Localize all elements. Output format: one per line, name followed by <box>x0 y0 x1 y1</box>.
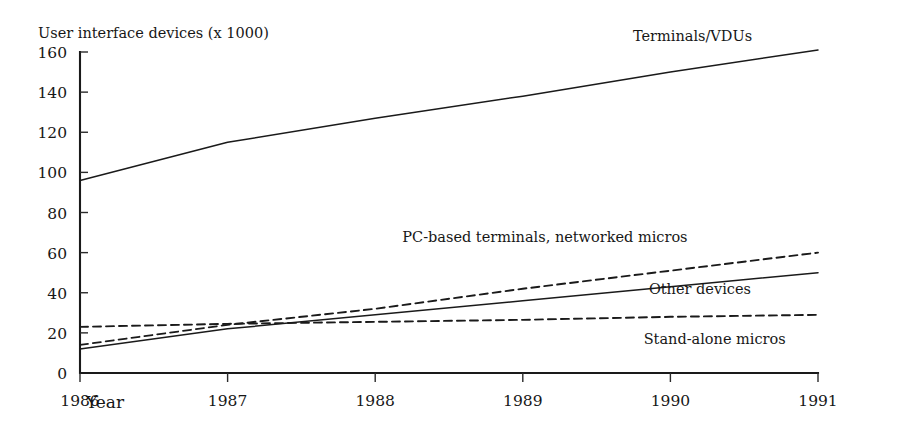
y-axis-tick-label: 80 <box>47 205 67 223</box>
y-axis-tick-label: 40 <box>47 285 67 303</box>
y-axis-tick-label: 120 <box>37 124 67 142</box>
series-line-terminals-vdus <box>80 50 818 180</box>
y-axis-tick-label: 60 <box>47 245 67 263</box>
y-axis-tick-label: 140 <box>37 84 67 102</box>
series-line-stand-alone-micros <box>80 315 818 327</box>
y-axis-tick-label: 0 <box>57 365 67 383</box>
y-axis-title: User interface devices (x 1000) <box>38 25 269 41</box>
x-axis-tick-label: 1988 <box>355 392 394 410</box>
y-axis-tick-label: 20 <box>47 325 67 343</box>
x-axis-title: Year <box>85 392 125 412</box>
series-label-other-devices: Other devices <box>649 281 751 297</box>
series-label-terminals-vdus: Terminals/VDUs <box>633 28 752 44</box>
x-axis-tick-label: 1991 <box>798 392 837 410</box>
line-chart: User interface devices (x 1000)020406080… <box>0 0 900 427</box>
chart-container: User interface devices (x 1000)020406080… <box>0 0 900 427</box>
y-axis-tick-label: 100 <box>37 164 67 182</box>
y-axis-tick-label: 160 <box>37 44 67 62</box>
series-label-stand-alone-micros: Stand-alone micros <box>644 331 786 347</box>
series-label-pc-based-terminals-networked-micros: PC-based terminals, networked micros <box>402 229 687 245</box>
x-axis-tick-label: 1989 <box>503 392 542 410</box>
x-axis-tick-label: 1990 <box>651 392 690 410</box>
x-axis-tick-label: 1987 <box>208 392 247 410</box>
